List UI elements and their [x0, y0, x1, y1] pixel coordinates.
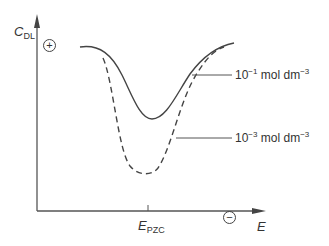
diagram-canvas [0, 0, 329, 246]
epzc-label: EPZC [138, 218, 165, 233]
label-unit-exp: −3 [300, 130, 309, 139]
label-unit: mol dm [257, 68, 300, 82]
negative-charge-icon: − [223, 211, 236, 224]
curve-dashed-0.001M [103, 47, 224, 174]
x-axis-arrow-icon [252, 208, 266, 214]
y-axis-label-sub: DL [23, 31, 35, 41]
label-unit-exp: −3 [300, 67, 309, 76]
y-axis-label-main: C [14, 24, 23, 39]
capacitance-diagram: CDL + 10−1 mol dm−3 10−3 mol dm−3 EPZC −… [0, 0, 329, 246]
y-axis-label: CDL [14, 24, 35, 39]
label-base: 10 [235, 131, 248, 145]
label-base: 10 [235, 68, 248, 82]
epzc-label-sub: PZC [147, 225, 165, 235]
curve-solid-0.1M [80, 43, 234, 119]
x-axis-label: E [257, 219, 266, 234]
label-unit: mol dm [257, 131, 300, 145]
curve-label-solid: 10−1 mol dm−3 [235, 68, 309, 82]
curve-label-dashed: 10−3 mol dm−3 [235, 131, 309, 145]
label-exp: −1 [248, 67, 257, 76]
epzc-label-main: E [138, 218, 147, 233]
positive-charge-icon: + [43, 39, 56, 52]
label-exp: −3 [248, 130, 257, 139]
